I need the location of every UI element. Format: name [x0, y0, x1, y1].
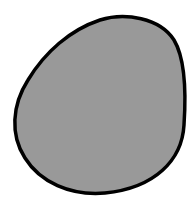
- canvas: [0, 0, 195, 203]
- gray-blob-shape: [15, 17, 185, 194]
